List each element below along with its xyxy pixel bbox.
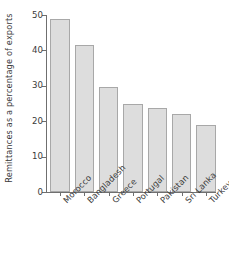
y-tick-label: 10 [32,151,43,161]
y-axis-title-text: Remittances as a percentage of exports [4,13,14,182]
y-tick-label: 30 [32,80,43,90]
bar [75,45,94,192]
x-axis-labels: MoroccoBangladeshGreecePortugalPakistanS… [46,196,229,254]
y-tick-label: 0 [38,187,43,197]
y-tick-label: 20 [32,116,43,126]
y-axis-title: Remittances as a percentage of exports [0,0,18,196]
y-axis-line [46,15,47,192]
y-tick-label: 50 [32,10,43,20]
bar [50,19,69,192]
plot-area: 01020304050 [46,15,216,192]
y-tick-label: 40 [32,45,43,55]
bar-chart: Remittances as a percentage of exports 0… [0,0,229,254]
